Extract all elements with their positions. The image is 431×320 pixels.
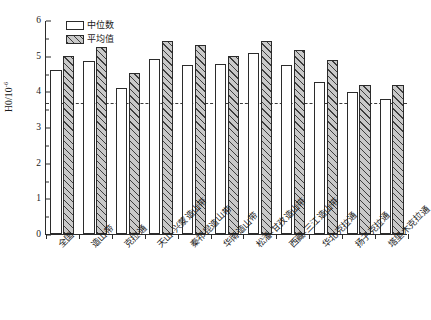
bar-median [248, 53, 259, 234]
x-tick [408, 234, 409, 239]
x-tick [309, 234, 310, 239]
chart-legend: 中位数 平均值 [66, 19, 114, 46]
bar-mean [392, 85, 403, 234]
y-axis-title-exponent: -6 [2, 82, 9, 88]
legend-item-mean: 平均值 [66, 33, 114, 47]
bar-group [375, 21, 408, 234]
legend-item-median: 中位数 [66, 19, 114, 33]
bar-mean [261, 41, 272, 234]
bar-median [83, 61, 94, 234]
x-tick [243, 234, 244, 239]
y-tick-label: 6 [11, 16, 46, 26]
bar-median [149, 59, 160, 234]
bar-group [145, 21, 178, 234]
bar-groups [46, 21, 407, 234]
bar-median [116, 88, 127, 234]
legend-swatch-median [66, 21, 84, 30]
bar-mean [359, 85, 370, 234]
bar-mean [96, 47, 107, 234]
x-tick [276, 234, 277, 239]
figure-caption [0, 311, 425, 320]
bar-group [243, 21, 276, 234]
x-tick [211, 234, 212, 239]
x-tick [79, 234, 80, 239]
y-tick-label: 0 [11, 230, 46, 240]
x-tick [112, 234, 113, 239]
x-tick [342, 234, 343, 239]
x-tick [145, 234, 146, 239]
y-tick-label: 3 [11, 123, 46, 133]
legend-label-median: 中位数 [87, 19, 114, 33]
y-tick-label: 5 [11, 52, 46, 62]
y-tick-label: 4 [11, 88, 46, 98]
x-tick [178, 234, 179, 239]
bar-group [46, 21, 79, 234]
bar-mean [162, 41, 173, 234]
x-tick [375, 234, 376, 239]
bar-group [112, 21, 145, 234]
bar-mean [63, 56, 74, 234]
bar-group [79, 21, 112, 234]
bar-median [50, 70, 61, 234]
bar-group [211, 21, 244, 234]
x-tick [46, 234, 47, 239]
y-tick-label: 1 [11, 195, 46, 205]
bar-mean [129, 73, 140, 234]
legend-swatch-mean [66, 35, 84, 44]
legend-label-mean: 平均值 [87, 33, 114, 47]
bar-group [342, 21, 375, 234]
y-tick-label: 2 [11, 159, 46, 169]
